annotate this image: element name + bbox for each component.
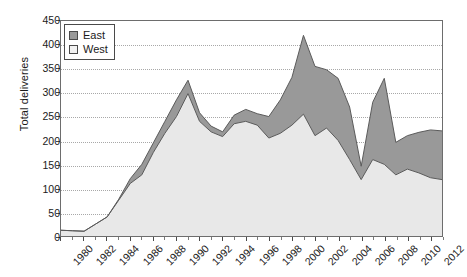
x-tick-mark-minor: [188, 237, 189, 240]
x-tick-mark-minor: [281, 237, 282, 240]
x-tick-mark-minor: [257, 237, 258, 240]
legend-label-west: West: [83, 44, 108, 55]
legend-item-east: East: [69, 28, 108, 42]
x-tick-mark-minor: [350, 237, 351, 240]
x-tick-label: 2004: [349, 243, 373, 267]
legend-swatch-west: [69, 45, 78, 54]
x-tick-mark: [176, 237, 177, 241]
x-tick-label: 1998: [280, 243, 304, 267]
x-tick-label: 1982: [94, 243, 118, 267]
x-tick-mark-minor: [95, 237, 96, 240]
x-tick-mark: [130, 237, 131, 241]
x-tick-mark: [153, 237, 154, 241]
x-tick-mark: [83, 237, 84, 241]
x-tick-label: 1980: [71, 243, 95, 267]
x-tick-label: 1988: [164, 243, 188, 267]
x-tick-mark-minor: [141, 237, 142, 240]
legend-label-east: East: [83, 30, 105, 41]
x-tick-mark-minor: [304, 237, 305, 240]
x-tick-mark: [339, 237, 340, 241]
x-tick-mark: [106, 237, 107, 241]
x-tick-mark-minor: [118, 237, 119, 240]
x-tick-mark: [362, 237, 363, 241]
x-tick-label: 1996: [257, 243, 281, 267]
x-tick-label: 1990: [187, 243, 211, 267]
x-tick-label: 2002: [326, 243, 350, 267]
x-tick-mark: [385, 237, 386, 241]
x-tick-mark: [246, 237, 247, 241]
legend-item-west: West: [69, 42, 108, 56]
legend: East West: [64, 24, 115, 60]
x-tick-label: 1994: [233, 243, 257, 267]
x-tick-mark-minor: [443, 237, 444, 240]
legend-swatch-east: [69, 31, 78, 40]
x-tick-mark: [315, 237, 316, 241]
x-tick-mark-minor: [234, 237, 235, 240]
x-tick-mark-minor: [327, 237, 328, 240]
x-tick-label: 1984: [117, 243, 141, 267]
x-tick-mark-minor: [72, 237, 73, 240]
x-tick-mark: [199, 237, 200, 241]
x-tick-mark-minor: [397, 237, 398, 240]
x-tick-mark: [60, 237, 61, 241]
x-tick-mark-minor: [211, 237, 212, 240]
x-tick-label: 1992: [210, 243, 234, 267]
x-tick-mark: [431, 237, 432, 241]
x-tick-label: 1986: [140, 243, 164, 267]
x-tick-mark: [269, 237, 270, 241]
x-tick-mark-minor: [420, 237, 421, 240]
x-tick-mark: [408, 237, 409, 241]
x-tick-label: 2012: [442, 243, 466, 267]
x-tick-mark: [292, 237, 293, 241]
x-tick-label: 2008: [396, 243, 420, 267]
x-tick-mark-minor: [164, 237, 165, 240]
x-tick-mark: [222, 237, 223, 241]
x-tick-label: 2006: [373, 243, 397, 267]
x-tick-label: 2010: [419, 243, 443, 267]
x-tick-mark-minor: [373, 237, 374, 240]
x-tick-label: 2000: [303, 243, 327, 267]
